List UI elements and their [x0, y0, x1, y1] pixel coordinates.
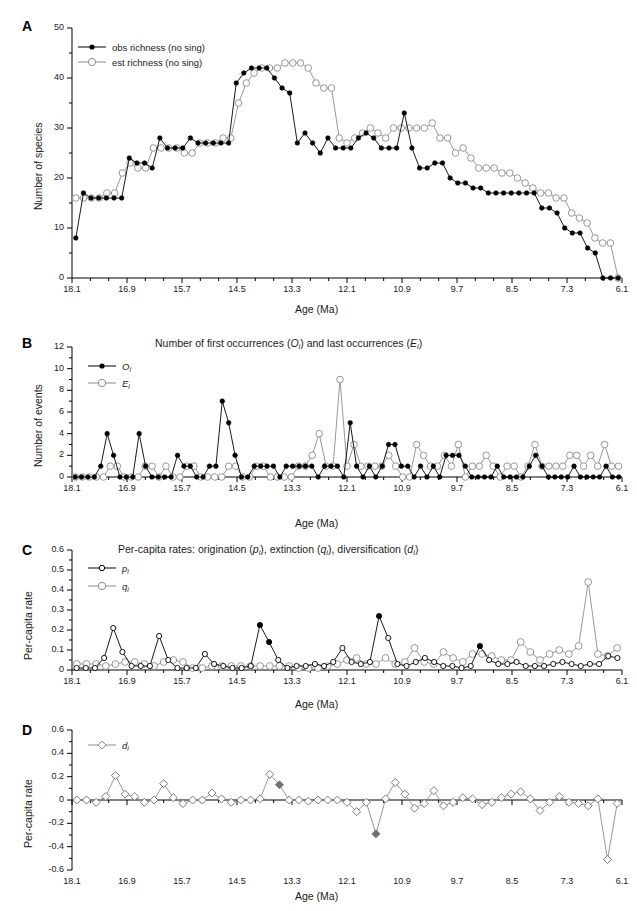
- panel-d: D Per-capita rate di Age (Ma) -0.6-0.4-0…: [0, 718, 637, 911]
- x-tick-label: 14.5: [219, 876, 255, 886]
- x-tick-label: 10.9: [384, 284, 420, 294]
- y-tick-label: 0.6: [24, 544, 64, 554]
- y-tick-label: 40: [24, 72, 64, 82]
- panel-c: C Per-capita rates: origination (pi), ex…: [0, 538, 637, 718]
- x-tick-label: 10.9: [384, 676, 420, 686]
- panel-d-plot: [0, 718, 637, 911]
- x-tick-label: 10.9: [384, 876, 420, 886]
- x-tick-label: 9.7: [439, 483, 475, 493]
- y-tick-label: -0.4: [24, 841, 64, 851]
- panel-a: A Number of species obs richness (no sin…: [0, 0, 637, 325]
- panel-d-x-axis-label: Age (Ma): [295, 890, 338, 902]
- x-tick-label: 18.1: [54, 876, 90, 886]
- x-tick-label: 14.5: [219, 483, 255, 493]
- x-tick-label: 8.5: [494, 876, 530, 886]
- y-tick-label: 0: [24, 471, 64, 481]
- panel-b-x-axis-label: Age (Ma): [295, 517, 338, 529]
- x-tick-label: 18.1: [54, 284, 90, 294]
- x-tick-label: 12.1: [329, 876, 365, 886]
- panel-d-legend-label-di: di: [122, 740, 129, 752]
- panel-b-legend-label-oi: Oi: [122, 361, 131, 373]
- x-tick-label: 15.7: [164, 483, 200, 493]
- x-tick-label: 6.1: [604, 676, 637, 686]
- y-tick-label: 12: [24, 341, 64, 351]
- x-tick-label: 7.3: [549, 483, 585, 493]
- panel-c-plot: [0, 538, 637, 718]
- x-tick-label: 13.3: [274, 876, 310, 886]
- x-tick-label: 16.9: [109, 483, 145, 493]
- y-tick-label: 0.4: [24, 584, 64, 594]
- x-tick-label: 8.5: [494, 284, 530, 294]
- x-tick-label: 16.9: [109, 284, 145, 294]
- x-tick-label: 14.5: [219, 284, 255, 294]
- y-tick-label: 0: [24, 272, 64, 282]
- y-tick-label: 0.2: [24, 624, 64, 634]
- x-tick-label: 16.9: [109, 676, 145, 686]
- x-tick-label: 18.1: [54, 676, 90, 686]
- x-tick-label: 9.7: [439, 284, 475, 294]
- y-tick-label: 10: [24, 222, 64, 232]
- x-tick-label: 12.1: [329, 676, 365, 686]
- y-tick-label: 2: [24, 449, 64, 459]
- x-tick-label: 10.9: [384, 483, 420, 493]
- x-tick-label: 7.3: [549, 284, 585, 294]
- y-tick-label: 0.5: [24, 564, 64, 574]
- x-tick-label: 6.1: [604, 284, 637, 294]
- x-tick-label: 8.5: [494, 676, 530, 686]
- x-tick-label: 13.3: [274, 483, 310, 493]
- y-tick-label: -0.6: [24, 864, 64, 874]
- x-tick-label: 9.7: [439, 676, 475, 686]
- y-tick-label: 0.6: [24, 724, 64, 734]
- panel-b-legend-label-ei: Ei: [122, 378, 130, 390]
- x-tick-label: 14.5: [219, 676, 255, 686]
- x-tick-label: 7.3: [549, 876, 585, 886]
- panel-b-plot: [0, 325, 637, 538]
- panel-a-x-axis-label: Age (Ma): [295, 303, 338, 315]
- y-tick-label: 0.1: [24, 644, 64, 654]
- x-tick-label: 15.7: [164, 876, 200, 886]
- panel-a-legend-label-obs: obs richness (no sing): [112, 42, 205, 53]
- panel-c-legend-label-pi: pi: [122, 563, 129, 575]
- x-tick-label: 18.1: [54, 483, 90, 493]
- y-tick-label: 6: [24, 406, 64, 416]
- y-tick-label: 4: [24, 428, 64, 438]
- panel-a-plot: [0, 0, 637, 325]
- y-tick-label: 0.4: [24, 747, 64, 757]
- y-tick-label: 0: [24, 664, 64, 674]
- x-tick-label: 15.7: [164, 284, 200, 294]
- y-tick-label: 30: [24, 122, 64, 132]
- panel-b: B Number of first occurrences (Oi) and l…: [0, 325, 637, 538]
- x-tick-label: 12.1: [329, 284, 365, 294]
- x-tick-label: 12.1: [329, 483, 365, 493]
- x-tick-label: 6.1: [604, 876, 637, 886]
- y-tick-label: 10: [24, 363, 64, 373]
- y-tick-label: 0.2: [24, 771, 64, 781]
- y-tick-label: 0.3: [24, 604, 64, 614]
- y-tick-label: 50: [24, 22, 64, 32]
- x-tick-label: 7.3: [549, 676, 585, 686]
- x-tick-label: 16.9: [109, 876, 145, 886]
- x-tick-label: 13.3: [274, 676, 310, 686]
- y-tick-label: 8: [24, 384, 64, 394]
- y-tick-label: 0: [24, 794, 64, 804]
- x-tick-label: 9.7: [439, 876, 475, 886]
- panel-c-legend-label-qi: qi: [122, 581, 129, 593]
- x-tick-label: 15.7: [164, 676, 200, 686]
- y-tick-label: -0.2: [24, 817, 64, 827]
- panel-c-x-axis-label: Age (Ma): [295, 698, 338, 710]
- y-tick-label: 20: [24, 172, 64, 182]
- x-tick-label: 6.1: [604, 483, 637, 493]
- x-tick-label: 8.5: [494, 483, 530, 493]
- panel-a-legend-label-est: est richness (no sing): [112, 57, 202, 68]
- x-tick-label: 13.3: [274, 284, 310, 294]
